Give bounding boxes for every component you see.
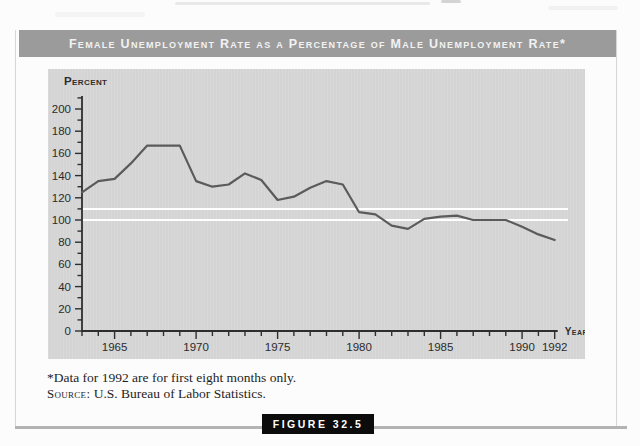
- scan-artifact: [175, 2, 430, 5]
- y-tick-label: 140: [52, 170, 71, 182]
- chart-panel: Percent 02040608010012014016018020019651…: [48, 69, 585, 359]
- scan-artifact: [548, 6, 618, 10]
- x-tick-label: 1985: [428, 341, 454, 353]
- y-tick-label: 160: [52, 147, 71, 159]
- figure-title: Female Unemployment Rate as a Percentage…: [69, 37, 566, 51]
- scan-artifact: [55, 12, 145, 17]
- x-tick-label: 1970: [183, 341, 209, 353]
- source-text: U.S. Bureau of Labor Statistics.: [94, 386, 266, 401]
- footnote-asterisk: *Data for 1992 are for first eight month…: [47, 370, 296, 386]
- figure-border-left: [15, 30, 16, 426]
- y-tick-label: 100: [52, 214, 71, 226]
- x-tick-label: 1990: [509, 341, 535, 353]
- chart-canvas: 0204060801001201401601802001965197019751…: [48, 69, 585, 359]
- source-label: Source:: [47, 387, 90, 401]
- y-tick-label: 80: [58, 236, 71, 248]
- figure-border-right: [616, 30, 617, 426]
- scanned-page: { "figure": { "title": "Female Unemploym…: [0, 0, 640, 446]
- data-line: [82, 146, 555, 240]
- figure-tag: Figure 32.5: [262, 414, 374, 434]
- y-tick-label: 40: [58, 281, 71, 293]
- y-tick-label: 20: [58, 303, 71, 315]
- y-tick-label: 60: [58, 258, 71, 270]
- x-axis-title: Year: [565, 326, 585, 337]
- x-tick-label: 1980: [346, 341, 372, 353]
- footnote-source: Source: U.S. Bureau of Labor Statistics.: [47, 386, 266, 402]
- y-tick-label: 120: [52, 192, 71, 204]
- y-tick-label: 200: [52, 103, 71, 115]
- y-tick-label: 180: [52, 125, 71, 137]
- x-tick-label: 1975: [265, 341, 291, 353]
- figure-tag-label: Figure 32.5: [273, 418, 364, 430]
- y-tick-label: 0: [65, 325, 71, 337]
- figure-title-bar: Female Unemployment Rate as a Percentage…: [19, 30, 616, 57]
- x-tick-label: 1965: [102, 341, 128, 353]
- x-tick-label: 1992: [542, 341, 568, 353]
- scan-artifact: [441, 0, 461, 3]
